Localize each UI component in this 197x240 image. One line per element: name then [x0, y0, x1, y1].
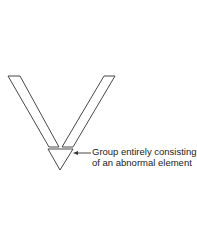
inverted-triangle	[48, 149, 73, 170]
annotation-line-2: of an abnormal element	[92, 157, 197, 168]
arrow-icon	[73, 151, 91, 155]
annotation-label: Group entirely consisting of an abnormal…	[92, 146, 197, 168]
left-diagonal-bar	[8, 76, 59, 147]
right-diagonal-bar	[62, 76, 115, 147]
annotation-line-1: Group entirely consisting	[92, 146, 197, 157]
